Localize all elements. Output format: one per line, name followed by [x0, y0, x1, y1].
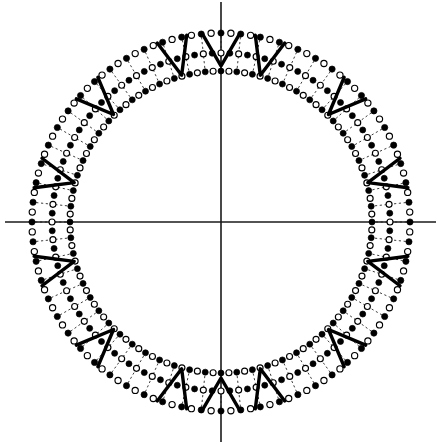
ring-marker-hollow	[247, 406, 253, 412]
ring-marker-hollow	[149, 84, 155, 90]
ring-marker-filled	[257, 404, 263, 410]
ring-marker-filled	[312, 383, 318, 389]
ring-marker-filled	[80, 280, 86, 286]
ring-marker-filled	[371, 330, 377, 336]
ring-marker-hollow	[194, 70, 200, 76]
ring-marker-hollow	[272, 360, 278, 366]
ring-marker-filled	[257, 34, 263, 40]
ring-marker-hollow	[91, 301, 97, 307]
ring-marker-hollow	[50, 305, 56, 311]
figure-root: Polar dial diagram with three concentric…	[0, 0, 441, 444]
ring-marker-filled	[358, 345, 364, 351]
ring-marker-hollow	[83, 288, 89, 294]
ring-marker-hollow	[337, 72, 343, 78]
ring-marker-filled	[330, 320, 336, 326]
ring-marker-hollow	[29, 229, 35, 235]
ring-marker-filled	[112, 350, 118, 356]
ring-marker-filled	[319, 331, 325, 337]
ring-marker-filled	[74, 172, 80, 178]
ring-marker-hollow	[267, 401, 273, 407]
ring-marker-filled	[340, 130, 346, 136]
ring-marker-filled	[218, 408, 224, 414]
polar-dial-diagram: Polar dial diagram with three concentric…	[0, 0, 441, 444]
ring-marker-filled	[244, 52, 250, 58]
ring-marker-hollow	[169, 36, 175, 42]
ring-marker-hollow	[64, 150, 70, 156]
ring-marker-filled	[157, 81, 163, 87]
ring-marker-filled	[68, 235, 74, 241]
ring-marker-filled	[295, 46, 301, 52]
ring-marker-hollow	[400, 268, 406, 274]
ring-marker-filled	[371, 108, 377, 114]
ring-marker-hollow	[71, 100, 77, 106]
ring-marker-filled	[33, 180, 39, 186]
ring-marker-filled	[218, 68, 224, 74]
ring-marker-filled	[187, 367, 193, 373]
ring-marker-filled	[65, 330, 71, 336]
ring-marker-filled	[338, 339, 344, 345]
ring-marker-hollow	[59, 116, 65, 122]
ring-marker-filled	[338, 100, 344, 106]
ring-marker-filled	[387, 228, 393, 234]
ring-marker-hollow	[84, 85, 90, 91]
ring-marker-filled	[60, 158, 66, 164]
ring-marker-filled	[382, 313, 388, 319]
ring-marker-hollow	[77, 165, 83, 171]
ring-marker-filled	[295, 370, 301, 376]
ring-marker-filled	[349, 144, 355, 150]
ring-marker-filled	[310, 77, 316, 83]
ring-marker-hollow	[286, 42, 292, 48]
ring-marker-filled	[99, 100, 105, 106]
ring-marker-hollow	[386, 133, 392, 139]
ring-marker-filled	[387, 210, 393, 216]
ring-marker-hollow	[77, 273, 83, 279]
ring-marker-hollow	[352, 85, 358, 91]
ring-marker-hollow	[115, 377, 121, 383]
ring-marker-filled	[117, 107, 123, 113]
ring-marker-filled	[68, 203, 74, 209]
ring-marker-filled	[117, 331, 123, 337]
ring-marker-hollow	[272, 78, 278, 84]
ring-marker-hollow	[99, 72, 105, 78]
ring-marker-filled	[141, 392, 147, 398]
ring-marker-hollow	[132, 51, 138, 57]
ring-marker-hollow	[49, 219, 55, 225]
ring-marker-filled	[369, 296, 375, 302]
ring-marker-filled	[96, 308, 102, 314]
ring-marker-hollow	[300, 92, 306, 98]
ring-marker-filled	[80, 158, 86, 164]
ring-marker-hollow	[41, 287, 47, 293]
ring-marker-hollow	[376, 322, 382, 328]
ring-marker-filled	[60, 280, 66, 286]
ring-marker-hollow	[31, 189, 37, 195]
ring-marker-filled	[344, 359, 350, 365]
ring-marker-hollow	[386, 305, 392, 311]
ring-marker-hollow	[69, 195, 75, 201]
ring-marker-hollow	[367, 195, 373, 201]
ring-marker-filled	[358, 92, 364, 98]
ring-marker-hollow	[247, 32, 253, 38]
ring-marker-filled	[360, 311, 366, 317]
ring-marker-hollow	[359, 165, 365, 171]
ring-marker-filled	[55, 175, 61, 181]
ring-marker-filled	[368, 235, 374, 241]
ring-marker-filled	[107, 66, 113, 72]
ring-marker-filled	[192, 386, 198, 392]
ring-marker-hollow	[200, 51, 206, 57]
ring-marker-hollow	[287, 373, 293, 379]
ring-marker-hollow	[72, 304, 78, 310]
ring-marker-hollow	[50, 201, 56, 207]
ring-marker-filled	[234, 69, 240, 75]
ring-marker-hollow	[50, 133, 56, 139]
ring-marker-filled	[106, 118, 112, 124]
ring-marker-hollow	[394, 287, 400, 293]
ring-marker-hollow	[321, 377, 327, 383]
ring-marker-hollow	[287, 65, 293, 71]
ring-marker-hollow	[169, 401, 175, 407]
ring-marker-filled	[403, 258, 409, 264]
ring-marker-hollow	[210, 68, 216, 74]
ring-marker-filled	[106, 320, 112, 326]
ring-marker-filled	[143, 350, 149, 356]
ring-marker-hollow	[67, 227, 73, 233]
ring-marker-filled	[349, 113, 355, 119]
